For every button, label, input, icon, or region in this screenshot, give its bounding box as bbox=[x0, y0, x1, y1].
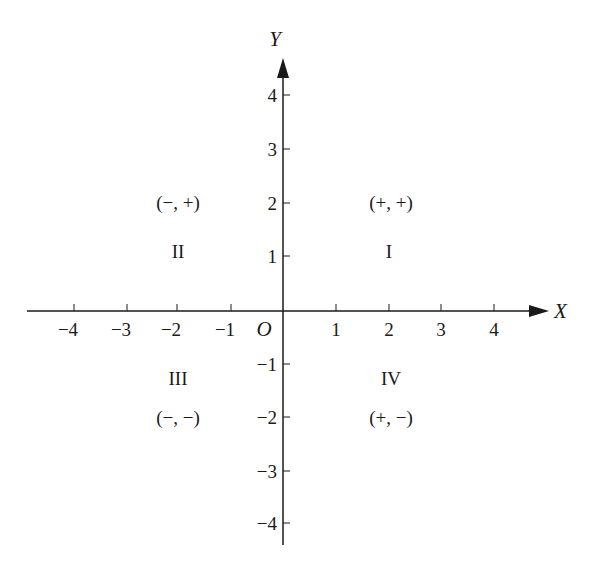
y-tick-label: 1 bbox=[268, 246, 278, 267]
quadrant-ii-signs: (−, +) bbox=[156, 192, 200, 214]
quadrant-iv-signs: (+, −) bbox=[369, 407, 413, 429]
x-tick-label: −3 bbox=[111, 319, 131, 340]
y-axis-label: Y bbox=[269, 27, 283, 51]
coordinate-plane: Y X O −4 −3 −2 −1 1 2 3 4 4 3 2 1 −1 −2 … bbox=[0, 0, 594, 575]
y-tick-label: 2 bbox=[268, 193, 278, 214]
origin-label: O bbox=[256, 317, 271, 341]
x-tick-label: −1 bbox=[215, 319, 235, 340]
quadrant-iv-label: IV bbox=[381, 368, 401, 389]
y-tick-label: −3 bbox=[257, 461, 277, 482]
x-axis-arrow-icon bbox=[529, 305, 549, 317]
x-tick-label: 3 bbox=[436, 319, 446, 340]
x-axis-label: X bbox=[553, 299, 568, 323]
y-tick-label: 3 bbox=[268, 139, 278, 160]
y-tick-label: −2 bbox=[257, 407, 277, 428]
x-tick-label: 4 bbox=[489, 319, 499, 340]
quadrant-i-label: I bbox=[386, 241, 392, 262]
y-tick-label: 4 bbox=[268, 85, 278, 106]
y-ticks bbox=[283, 95, 290, 523]
quadrant-ii-label: II bbox=[172, 241, 185, 262]
y-axis-arrow-icon bbox=[277, 58, 289, 78]
x-tick-label: 1 bbox=[331, 319, 341, 340]
x-tick-label: 2 bbox=[384, 319, 394, 340]
x-tick-label: −4 bbox=[58, 319, 79, 340]
x-tick-label: −2 bbox=[161, 319, 181, 340]
x-ticks bbox=[74, 304, 494, 311]
y-tick-label: −1 bbox=[257, 354, 277, 375]
quadrant-iii-label: III bbox=[169, 368, 188, 389]
quadrant-i-signs: (+, +) bbox=[369, 192, 413, 214]
y-tick-label: −4 bbox=[257, 513, 278, 534]
quadrant-iii-signs: (−, −) bbox=[156, 407, 200, 429]
